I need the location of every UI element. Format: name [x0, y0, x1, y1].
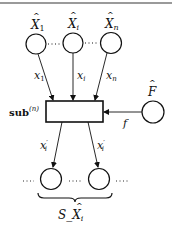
svg-text:Xi: Xi: [67, 17, 80, 32]
svg-text:Xn: Xn: [104, 17, 119, 32]
sub-box: [46, 101, 103, 122]
edge-label-out-right: x′i: [97, 139, 105, 153]
box-label: sub(n): [9, 105, 39, 118]
output-node-right: [89, 169, 110, 190]
edge-label-x1: x1: [34, 69, 45, 83]
hat-icon: ^: [107, 10, 114, 19]
edge-out-left: [53, 122, 62, 167]
output-node-left: [41, 169, 62, 190]
svg-text:X1: X1: [30, 18, 45, 33]
edge-label-xi: xi: [77, 69, 85, 83]
brace-label: S_Xi: [58, 208, 84, 223]
diagram-canvas: X1 ^ Xi ^ Xn ^ x1 xi xn sub(n) F ^ f x′i…: [0, 0, 172, 228]
edge-label-f: f: [122, 117, 129, 130]
hat-icon: ^: [149, 78, 156, 87]
underbrace: [38, 193, 112, 202]
hat-icon: ^: [70, 10, 77, 19]
top-rule: [0, 2, 172, 4]
input-node-1: X1 ^: [26, 11, 46, 54]
hat-icon: ^: [33, 11, 40, 20]
side-node-f: F ^: [142, 78, 164, 123]
edge-label-xn: xn: [106, 69, 117, 83]
input-node-n: Xn ^: [101, 10, 122, 54]
svg-text:F: F: [147, 85, 157, 99]
input-node-i: Xi ^: [63, 10, 83, 53]
edge-label-out-left: x′i: [40, 139, 48, 153]
hat-icon: ^: [76, 201, 83, 210]
